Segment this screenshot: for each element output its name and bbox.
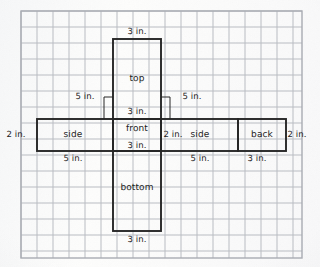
dimension-label-top-width: 3 in. [127,28,146,37]
face-label-side-right: side [191,131,210,140]
dimension-label-top-height-right: 5 in. [182,93,201,102]
dimension-label-front-width-upper: 3 in. [127,108,146,117]
dimension-label-side-left-height: 2 in. [6,131,25,140]
face-label-bottom: bottom [120,184,153,193]
dimension-label-side-left-width: 5 in. [63,155,82,164]
dimension-label-side-right-width: 5 in. [190,155,209,164]
face-label-top: top [129,75,144,84]
dimension-label-bottom-width: 3 in. [127,236,146,245]
net-diagram-figure: top front bottom side side back 3 in. 5 … [0,0,320,267]
dimension-label-top-height-left: 5 in. [75,93,94,102]
face-label-front: front [126,125,148,134]
face-label-side-left: side [64,131,83,140]
dimension-label-front-width-lower: 3 in. [127,142,146,151]
dimension-label-back-width: 3 in. [247,155,266,164]
face-label-back: back [251,131,273,140]
dimension-label-front-right-height: 2 in. [163,131,182,140]
dimension-label-back-right-height: 2 in. [287,131,306,140]
